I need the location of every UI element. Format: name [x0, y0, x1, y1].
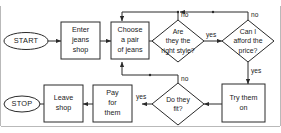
node-enter-shop-line1: Enter	[72, 25, 90, 34]
node-leave-shop[interactable]: Leave shop	[44, 85, 83, 122]
node-choose-jeans-line3: of jeans	[117, 45, 143, 54]
node-right-style-line2: they the	[166, 37, 191, 45]
node-do-they-fit[interactable]: Do they fit?	[152, 83, 204, 125]
node-pay-for-them-line2: for	[108, 98, 117, 107]
node-stop-label: STOP	[12, 99, 33, 108]
node-leave-shop-line2: shop	[56, 103, 72, 112]
node-start-label: START	[14, 36, 39, 45]
node-choose-jeans-line2: a pair	[121, 35, 140, 44]
node-pay-for-them[interactable]: Pay for them	[93, 85, 132, 122]
node-pay-for-them-line1: Pay	[106, 88, 119, 97]
flowchart-canvas: START Enter jeans shop Choose a pair of …	[0, 0, 281, 133]
edge-label-fit-yes: yes	[136, 93, 147, 101]
node-start[interactable]: START	[4, 33, 48, 50]
node-leave-shop-line1: Leave	[54, 93, 74, 102]
node-afford-price-line2: afford the	[234, 37, 263, 44]
node-try-them-on-line1: Try them	[229, 93, 257, 102]
node-right-style-line1: Are	[173, 28, 184, 35]
node-do-they-fit-line2: fit?	[173, 105, 182, 112]
node-enter-shop-line3: shop	[73, 45, 89, 54]
node-afford-price-line1: Can I	[240, 28, 257, 35]
node-do-they-fit-line1: Do they	[166, 96, 190, 104]
node-right-style-line3: right style?	[161, 47, 194, 55]
node-try-them-on[interactable]: Try them on	[222, 84, 265, 122]
edge-label-afford-no: no	[251, 11, 259, 18]
node-afford-price[interactable]: Can I afford the price?	[222, 20, 274, 62]
edge-label-style-yes: yes	[206, 31, 217, 39]
node-afford-price-line3: price?	[239, 47, 258, 55]
node-right-style[interactable]: Are they the right style?	[152, 20, 204, 62]
node-pay-for-them-line3: them	[105, 108, 121, 117]
node-stop[interactable]: STOP	[4, 96, 40, 112]
node-enter-shop-line2: jeans	[71, 35, 90, 44]
node-choose-jeans[interactable]: Choose a pair of jeans	[111, 22, 149, 59]
edge-label-afford-yes: yes	[251, 67, 262, 75]
edge-label-fit-no: no	[181, 75, 189, 82]
node-enter-shop[interactable]: Enter jeans shop	[61, 22, 100, 59]
node-try-them-on-line2: on	[240, 103, 248, 112]
node-choose-jeans-line1: Choose	[118, 25, 143, 34]
edge-label-style-no: no	[181, 11, 189, 18]
